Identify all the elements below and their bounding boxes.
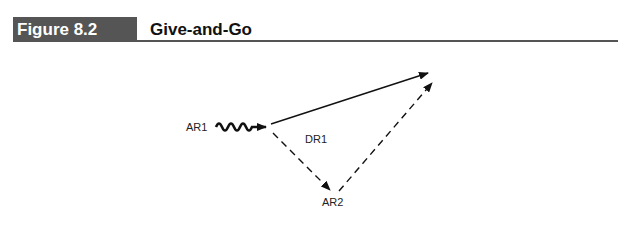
give-and-go-diagram — [0, 0, 624, 236]
return-pass-dashed-arrow — [339, 83, 432, 191]
dribble-wavy-arrow — [216, 124, 266, 131]
player-label-dr1: DR1 — [305, 133, 327, 145]
player-label-ar1: AR1 — [186, 121, 207, 133]
run-solid-arrow — [271, 73, 428, 124]
player-label-ar2: AR2 — [322, 196, 343, 208]
